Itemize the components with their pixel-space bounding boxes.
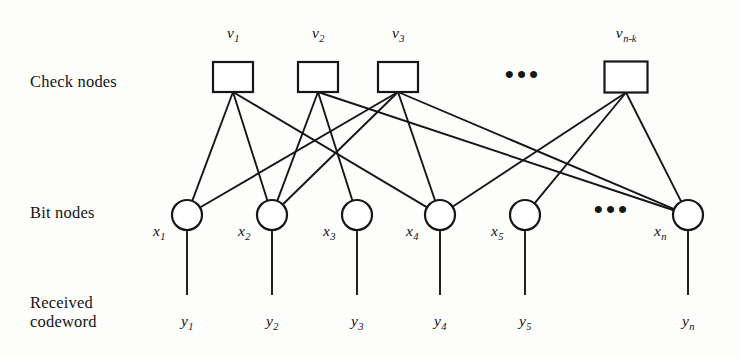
check-node-label-v2: v2: [312, 24, 324, 42]
check-node-boxes-group: [213, 62, 648, 93]
received-label-y1: y1: [181, 312, 193, 330]
edge-vnk-x5: [535, 93, 626, 204]
check-node-label-vnk-subscript: n-k: [623, 33, 636, 44]
bit-node-label-x2-subscript: 2: [245, 231, 250, 242]
bit-node-xn[interactable]: [673, 200, 703, 230]
check-node-label-v1-base: v: [227, 24, 234, 41]
bit-node-x4[interactable]: [425, 200, 455, 230]
check-node-label-v2-subscript: 2: [319, 33, 324, 44]
edge-v3-x1: [200, 92, 398, 207]
row-label-received-codeword: Received codeword: [30, 293, 97, 332]
bit-row-ellipsis: •••: [594, 195, 630, 225]
received-label-y3-subscript: 3: [358, 321, 363, 332]
edge-v1-x1: [192, 92, 233, 201]
bit-node-x2[interactable]: [257, 200, 287, 230]
check-node-label-vnk-base: v: [616, 24, 623, 41]
figure-canvas: Check nodes Bit nodes Received codeword …: [0, 0, 739, 358]
bit-node-label-x4-subscript: 4: [413, 231, 418, 242]
check-node-v1[interactable]: [213, 62, 253, 92]
bit-node-label-x1-base: x: [153, 222, 160, 239]
bit-node-label-x2: x2: [238, 222, 250, 240]
received-label-yn-base: y: [682, 312, 689, 329]
received-label-y5-subscript: 5: [526, 321, 531, 332]
check-row-ellipsis: •••: [505, 60, 541, 90]
bit-node-stems-group: [187, 230, 688, 295]
bit-node-label-x5-subscript: 5: [498, 231, 503, 242]
bit-node-label-x4-base: x: [406, 222, 413, 239]
bit-node-label-x3-base: x: [323, 222, 330, 239]
edges-group: [192, 92, 681, 210]
check-node-label-v3-subscript: 3: [399, 33, 404, 44]
row-label-check-nodes: Check nodes: [30, 72, 117, 91]
bit-node-label-x1: x1: [153, 222, 165, 240]
received-label-yn: yn: [682, 312, 694, 330]
bit-node-label-x4: x4: [406, 222, 418, 240]
edge-v2-xn: [318, 92, 674, 210]
check-node-label-v2-base: v: [312, 24, 319, 41]
bit-node-label-x2-base: x: [238, 222, 245, 239]
received-label-y3: y3: [351, 312, 363, 330]
check-node-v2[interactable]: [298, 62, 338, 92]
received-label-y2-subscript: 2: [273, 321, 278, 332]
bit-node-x1[interactable]: [172, 200, 202, 230]
received-label-y4-subscript: 4: [441, 321, 446, 332]
row-label-bit-nodes: Bit nodes: [30, 203, 95, 222]
edge-v3-xn: [398, 92, 674, 209]
bit-node-x3[interactable]: [342, 200, 372, 230]
bit-node-label-xn: xn: [654, 222, 666, 240]
edge-vnk-xn: [626, 93, 681, 202]
check-node-label-v1: v1: [227, 24, 239, 42]
received-label-y1-base: y: [181, 312, 188, 329]
received-label-y4-base: y: [434, 312, 441, 329]
edge-v2-x2: [277, 92, 318, 201]
received-label-y2: y2: [266, 312, 278, 330]
received-label-y4: y4: [434, 312, 446, 330]
tanner-graph-svg: [0, 0, 739, 358]
edge-v3-x4: [398, 92, 435, 201]
received-label-yn-subscript: n: [689, 321, 694, 332]
received-label-y1-subscript: 1: [188, 321, 193, 332]
check-node-label-vnk: vn-k: [616, 24, 636, 42]
check-node-label-v1-subscript: 1: [234, 33, 239, 44]
received-label-y5: y5: [519, 312, 531, 330]
bit-node-label-x5: x5: [491, 222, 503, 240]
received-label-y5-base: y: [519, 312, 526, 329]
edge-v1-x4: [233, 92, 427, 207]
bit-node-label-x3-subscript: 3: [330, 231, 335, 242]
check-node-label-v3-base: v: [392, 24, 399, 41]
bit-node-label-x5-base: x: [491, 222, 498, 239]
check-node-v3[interactable]: [378, 62, 418, 92]
check-node-label-v3: v3: [392, 24, 404, 42]
bit-node-label-xn-base: x: [654, 222, 661, 239]
bit-node-label-x1-subscript: 1: [160, 231, 165, 242]
edge-vnk-x4: [453, 93, 626, 207]
received-label-y2-base: y: [266, 312, 273, 329]
check-node-vnk[interactable]: [605, 62, 648, 93]
bit-node-x5[interactable]: [510, 200, 540, 230]
bit-node-label-xn-subscript: n: [661, 231, 666, 242]
received-label-y3-base: y: [351, 312, 358, 329]
bit-node-label-x3: x3: [323, 222, 335, 240]
